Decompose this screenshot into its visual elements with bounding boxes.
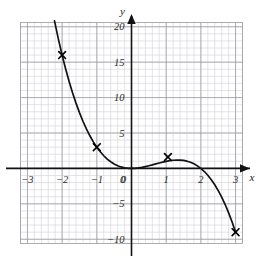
y-tick-label: 20	[114, 21, 125, 32]
graph-figure: −3−2−10123 2015105−5−100 x y	[0, 0, 264, 262]
x-tick-label: 3	[232, 174, 238, 185]
x-tick-label: 2	[198, 174, 204, 185]
x-tick-label: −1	[91, 174, 103, 185]
y-tick-label: 10	[114, 92, 125, 103]
x-tick-label: −3	[21, 174, 33, 185]
origin-tick-label: 0	[121, 174, 127, 185]
y-tick-label: 15	[114, 57, 125, 68]
y-tick-label: −10	[107, 234, 125, 245]
y-tick-label: −5	[112, 198, 124, 209]
y-tick-label: 5	[119, 128, 124, 139]
x-tick-label: −2	[56, 174, 69, 185]
x-axis-label: x	[249, 171, 255, 183]
cartesian-plot: −3−2−10123 2015105−5−100 x y	[0, 0, 264, 262]
y-axis-label: y	[119, 5, 125, 17]
x-tick-label: 1	[164, 174, 169, 185]
